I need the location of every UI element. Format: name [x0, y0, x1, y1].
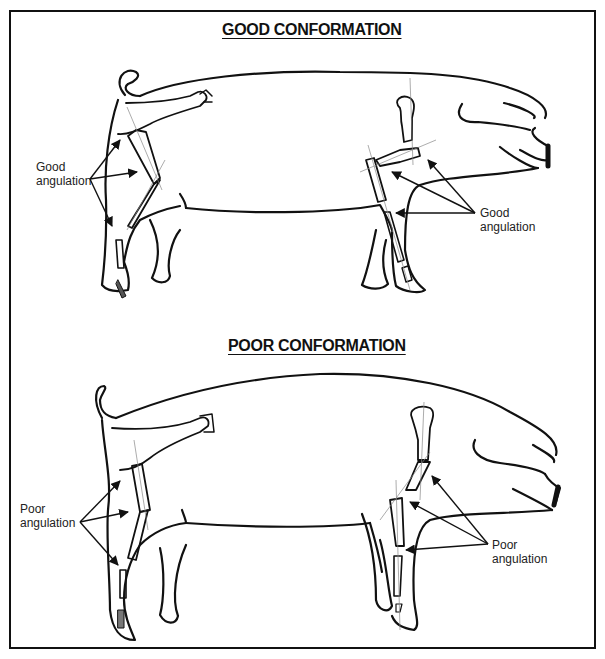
arrows-poor — [80, 476, 488, 565]
pig-good — [102, 71, 548, 298]
figure-caption-cropped — [283, 652, 323, 659]
angle-guides-good — [127, 78, 436, 290]
pig-poor — [96, 374, 560, 640]
back-line — [140, 72, 546, 118]
pig-illustrations — [0, 0, 605, 659]
angle-guides-poor — [134, 402, 430, 630]
tail — [120, 71, 140, 96]
